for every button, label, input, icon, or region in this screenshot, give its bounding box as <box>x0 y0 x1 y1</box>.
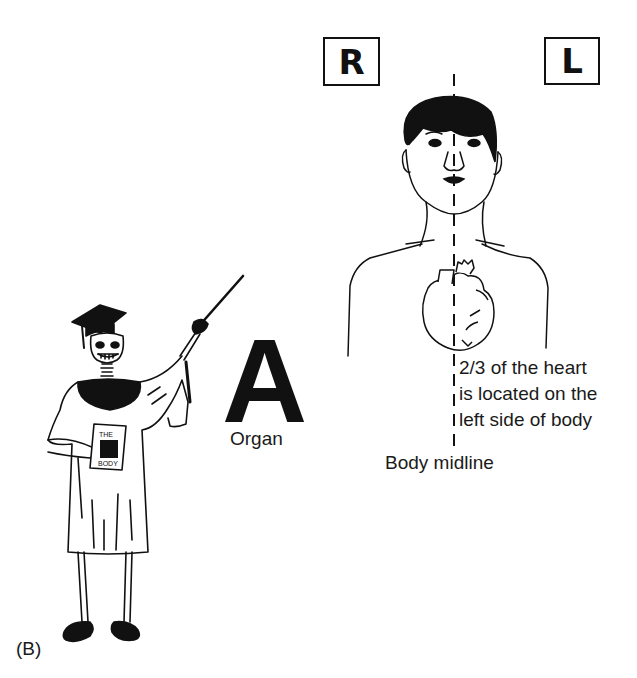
right-side-marker: R <box>323 37 380 86</box>
heart-annotation: 2/3 of the heart is located on the left … <box>459 355 597 433</box>
midline-label: Body midline <box>385 452 494 475</box>
mnemonic-letter: A <box>222 322 307 440</box>
svg-text:BODY: BODY <box>98 460 118 467</box>
mnemonic-word: Organ <box>230 428 283 451</box>
svg-text:THE: THE <box>99 431 113 438</box>
annotation-line: 2/3 of the heart <box>459 355 597 381</box>
skeleton-teacher-icon: THE BODY <box>48 276 243 641</box>
panel-label: (B) <box>16 638 41 661</box>
heart-icon <box>423 260 494 350</box>
annotation-line: is located on the <box>459 381 597 407</box>
left-side-marker: L <box>544 37 600 85</box>
annotation-line: left side of body <box>459 407 597 433</box>
illustration-canvas: THE BODY <box>0 0 637 678</box>
